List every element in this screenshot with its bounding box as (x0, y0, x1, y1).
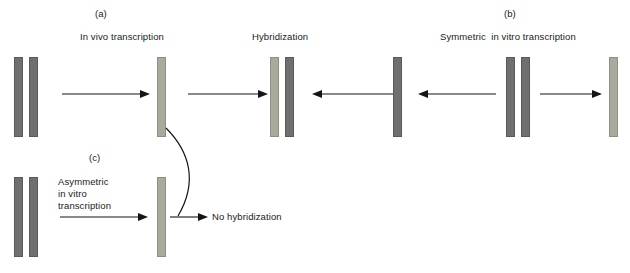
arrow-a-transcription (62, 88, 152, 100)
arrow-b-symmetric-left (418, 88, 496, 100)
label-symmetric-in-vitro-transcription: Symmetric in vitro transcription (440, 31, 576, 43)
arrow-c-no-hybridization (170, 211, 210, 223)
arrow-b-symmetric-right (540, 88, 602, 100)
dsdna-strand-c-1 (14, 177, 23, 257)
label-no-hybridization: No hybridization (212, 211, 282, 223)
figure-canvas: (a) In vivo transcription Hybridization … (0, 0, 630, 273)
ssrna-strand-b-right (609, 57, 618, 137)
label-in-vivo-transcription: In vivo transcription (80, 31, 164, 43)
hybrid-strand-dark (285, 57, 294, 137)
label-asymmetric-line2: in vitro (58, 188, 87, 200)
label-asymmetric-line1: Asymmetric (58, 176, 109, 188)
dsdna-strand-b-2 (521, 57, 530, 137)
arrow-a-hybridization (188, 88, 270, 100)
panel-tag-a: (a) (95, 8, 107, 19)
dsdna-strand-b-1 (506, 57, 515, 137)
dsdna-strand-a-left-1 (14, 57, 23, 137)
dsdna-strand-a-left-2 (29, 57, 38, 137)
label-asymmetric-line3: transcription (58, 200, 111, 212)
dsdna-strand-c-2 (29, 177, 38, 257)
curve-no-hybridization-connector (160, 128, 220, 222)
arrow-c-transcription (60, 211, 150, 223)
panel-tag-c: (c) (89, 152, 100, 163)
ssrna-strand-a (157, 57, 166, 137)
panel-tag-b: (b) (504, 8, 516, 19)
arrow-b-to-hybridization (312, 88, 394, 100)
hybrid-strand-light (270, 57, 279, 137)
ssrna-strand-b-left (393, 57, 402, 137)
label-hybridization: Hybridization (252, 31, 308, 43)
